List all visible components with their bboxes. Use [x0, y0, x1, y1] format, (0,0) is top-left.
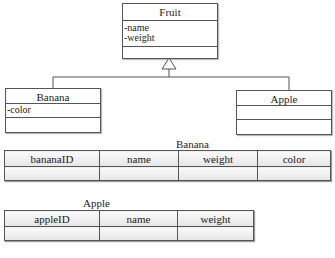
- banana-class-name: Banana: [6, 89, 100, 103]
- banana-class: Banana -color: [5, 88, 101, 133]
- banana-col-weight: weight: [179, 151, 258, 167]
- table-row: [5, 167, 331, 181]
- banana-cell-bananaid: [5, 167, 100, 181]
- apple-col-name: name: [100, 211, 178, 227]
- apple-cell-weight: [178, 227, 254, 241]
- banana-cell-name: [100, 167, 179, 181]
- apple-class-name: Apple: [237, 91, 331, 105]
- banana-cell-color: [258, 167, 331, 181]
- banana-attributes: -color: [6, 103, 100, 117]
- table-row: [5, 227, 254, 241]
- banana-col-bananaid: bananaID: [5, 151, 100, 167]
- apple-col-weight: weight: [178, 211, 254, 227]
- apple-cell-appleid: [5, 227, 100, 241]
- apple-class: Apple: [236, 90, 332, 135]
- apple-table-label: Apple: [83, 197, 110, 209]
- banana-methods: [6, 117, 100, 132]
- apple-table: appleID name weight: [4, 210, 254, 241]
- banana-table: bananaID name weight color: [4, 150, 331, 181]
- banana-table-header-row: bananaID name weight color: [5, 151, 331, 167]
- apple-cell-name: [100, 227, 178, 241]
- apple-attributes: [237, 105, 331, 119]
- banana-col-color: color: [258, 151, 331, 167]
- banana-table-label: Banana: [176, 138, 209, 150]
- banana-col-name: name: [100, 151, 179, 167]
- apple-col-appleid: appleID: [5, 211, 100, 227]
- apple-table-header-row: appleID name weight: [5, 211, 254, 227]
- apple-methods: [237, 119, 331, 134]
- banana-attr-color: -color: [7, 105, 99, 115]
- banana-cell-weight: [179, 167, 258, 181]
